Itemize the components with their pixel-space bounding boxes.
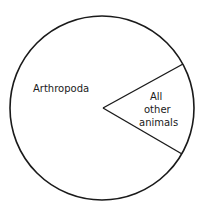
label-others-3: animals (139, 117, 178, 128)
label-others-2: other (144, 104, 172, 115)
pie-chart: Arthropoda All other animals (0, 0, 204, 211)
label-arthropoda: Arthropoda (33, 83, 89, 94)
label-others-1: All (150, 91, 162, 102)
